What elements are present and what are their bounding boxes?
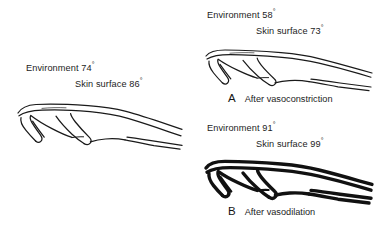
degree-symbol-icon: ° — [321, 24, 324, 31]
hand-illustration-vasoconstriction — [201, 44, 376, 94]
environment-temperature-label-normal: Environment 74° — [26, 63, 95, 74]
degree-symbol-icon: ° — [92, 61, 95, 68]
thermoregulation-figure: Environment 74° Skin surface 86° — [0, 0, 380, 229]
environment-temperature-label-b: Environment 91° — [207, 123, 276, 134]
caption-panel-b: B After vasodilation — [228, 205, 315, 217]
panel-letter-a: A — [228, 92, 236, 104]
caption-text-a: After vasoconstriction — [245, 94, 333, 104]
caption-text-b: After vasodilation — [245, 207, 315, 217]
degree-symbol-icon: ° — [273, 121, 276, 128]
environment-temperature-label-a: Environment 58° — [207, 10, 276, 21]
skin-surface-temperature-label-normal: Skin surface 86° — [75, 79, 143, 90]
degree-symbol-icon: ° — [273, 8, 276, 15]
degree-symbol-icon: ° — [140, 77, 143, 84]
skin-surface-temperature-label-a: Skin surface 73° — [256, 26, 324, 37]
caption-panel-a: A After vasoconstriction — [228, 92, 333, 104]
hand-illustration-normal — [12, 96, 187, 151]
skin-surface-temperature-label-b: Skin surface 99° — [256, 139, 324, 150]
degree-symbol-icon: ° — [321, 137, 324, 144]
hand-illustration-vasodilation — [201, 155, 376, 207]
panel-letter-b: B — [228, 205, 236, 217]
